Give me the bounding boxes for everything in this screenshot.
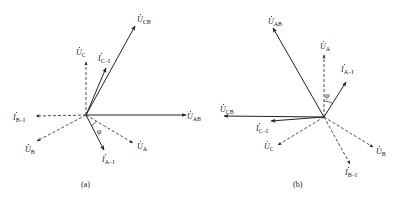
dot-accent-icon: [379, 146, 380, 147]
phasor-label-u-a: UA: [320, 42, 331, 52]
phasor-diagram-b: UABUAIA−IUCBIC−IUCUBIB−Iφ: [220, 16, 386, 178]
phasor-i-c-i: [271, 117, 324, 121]
angle-phi-label: φ: [97, 127, 102, 136]
dot-accent-icon: [259, 123, 260, 124]
phasor-label-i-a-i: IA−I: [101, 155, 114, 165]
phasor-u-cb: [86, 26, 135, 115]
phasor-label-i-c-i: IC−I: [97, 54, 110, 64]
phasor-diagram-a: UCBUCIC−IIB−IUBUABUAIA−Iφ: [12, 14, 201, 165]
dot-accent-icon: [16, 112, 17, 113]
phasor-label-u-cb: UCB: [220, 105, 234, 115]
caption-a: (a): [81, 180, 90, 189]
phasor-label-u-ab: UAB: [187, 112, 201, 122]
caption-b: (b): [293, 180, 303, 189]
phasor-label-u-cb: UCB: [137, 15, 151, 25]
dot-accent-icon: [28, 144, 29, 145]
phasor-label-i-a-i: IA−I: [340, 65, 353, 75]
dot-accent-icon: [271, 16, 272, 17]
dot-accent-icon: [348, 167, 349, 168]
phasor-label-u-c: UC: [76, 48, 86, 58]
angle-arc: [324, 101, 333, 103]
phasor-i-b-i: [324, 117, 350, 164]
phasor-u-cb: [224, 116, 324, 117]
phasor-i-b-i: [36, 115, 86, 116]
phasor-label-i-b-i: IB−I: [12, 113, 25, 123]
phasor-label-u-ab: UAB: [268, 17, 282, 27]
dot-accent-icon: [140, 141, 141, 142]
phasor-label-u-b: UB: [25, 145, 35, 155]
dot-accent-icon: [223, 104, 224, 105]
phasor-label-u-a: UA: [137, 142, 148, 152]
phasor-diagram-canvas: UCBUCIC−IIB−IUBUABUAIA−Iφ UABUAIA−IUCBIC…: [0, 0, 400, 200]
phasor-label-u-b: UB: [376, 147, 386, 157]
phasor-label-i-c-i: IC−I: [255, 124, 268, 134]
dot-accent-icon: [79, 47, 80, 48]
phasor-u-c: [278, 117, 324, 145]
dot-accent-icon: [323, 41, 324, 42]
phasor-u-ab: [273, 28, 324, 117]
dot-accent-icon: [101, 53, 102, 54]
dot-accent-icon: [140, 14, 141, 15]
phasor-u-b: [37, 115, 86, 141]
angle-arc: [91, 121, 96, 126]
phasor-label-u-c: UC: [264, 142, 274, 152]
phasor-u-b: [324, 117, 373, 147]
dot-accent-icon: [105, 154, 106, 155]
dot-accent-icon: [267, 141, 268, 142]
dot-accent-icon: [344, 64, 345, 65]
phasor-label-i-b-i: IB−I: [344, 168, 357, 178]
phasor-i-c-i: [86, 68, 106, 115]
dot-accent-icon: [190, 111, 191, 112]
angle-phi-label: φ: [325, 91, 330, 100]
